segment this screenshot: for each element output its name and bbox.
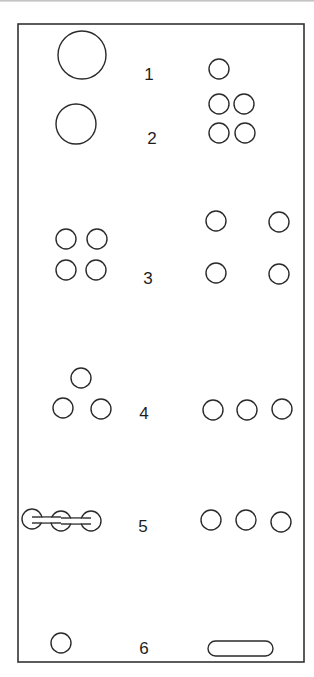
panel-drawing: 123456 <box>0 0 314 677</box>
panel-outline <box>18 24 304 662</box>
slot-mask <box>69 519 82 523</box>
slot-mask <box>40 518 52 522</box>
row-label-1: 1 <box>144 65 153 84</box>
row-label-4: 4 <box>139 404 148 423</box>
row-label-5: 5 <box>138 517 147 536</box>
row-label-3: 3 <box>143 269 152 288</box>
row-label-2: 2 <box>147 129 156 148</box>
row-label-6: 6 <box>139 639 148 658</box>
